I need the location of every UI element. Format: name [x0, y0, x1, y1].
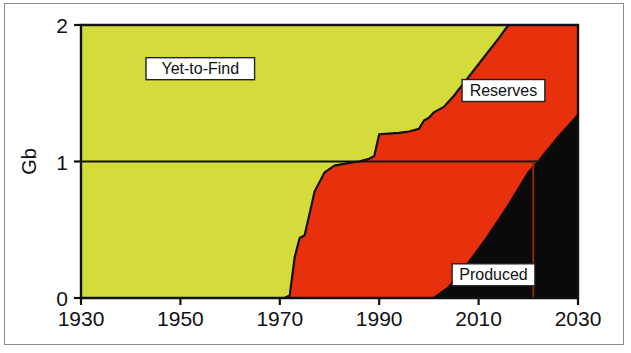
x-tick-label: 1950 [157, 307, 204, 330]
x-tick-label: 2010 [455, 307, 502, 330]
y-axis-title: Gb [18, 148, 40, 175]
series-label-produced: Produced [452, 264, 535, 286]
series-label-reserves: Reserves [462, 80, 545, 102]
x-tick-label: 1990 [356, 307, 403, 330]
x-tick-label: 2030 [555, 307, 602, 330]
y-tick-label: 0 [56, 287, 68, 310]
series-label-text: Reserves [470, 82, 538, 99]
series-label-text: Produced [459, 266, 528, 283]
figure-frame: 193019501970199020102030 012 Gb Yet-to-F… [4, 3, 624, 345]
series-label-yet-to-find: Yet-to-Find [146, 58, 255, 80]
y-tick-label: 2 [56, 14, 68, 37]
y-axis-tick-labels: 012 [56, 14, 68, 310]
y-tick-label: 1 [56, 151, 68, 174]
x-tick-label: 1930 [58, 307, 105, 330]
oil-depletion-area-chart: 193019501970199020102030 012 Gb Yet-to-F… [5, 4, 625, 346]
y-axis-title-label: Gb [18, 148, 40, 175]
x-tick-label: 1970 [256, 307, 303, 330]
series-label-text: Yet-to-Find [161, 60, 239, 77]
x-axis-tick-labels: 193019501970199020102030 [58, 307, 602, 330]
